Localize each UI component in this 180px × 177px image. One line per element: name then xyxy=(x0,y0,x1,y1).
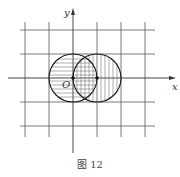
origin-point xyxy=(71,76,75,80)
figure-caption: 图 12 xyxy=(0,156,180,171)
circle-diagram: O y x xyxy=(0,0,180,177)
axes xyxy=(8,12,172,153)
x-axis-label: x xyxy=(172,81,178,92)
x-axis-arrow-icon xyxy=(169,76,176,80)
center-point xyxy=(95,76,99,80)
y-axis-arrow-icon xyxy=(71,8,75,15)
origin-label: O xyxy=(62,79,70,90)
y-axis-label: y xyxy=(63,7,70,18)
grid xyxy=(20,22,155,137)
